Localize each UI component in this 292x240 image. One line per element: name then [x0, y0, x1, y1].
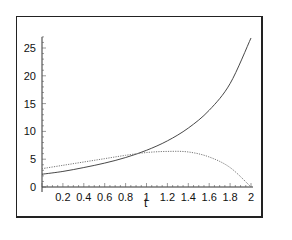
y-tick-label: 20: [24, 70, 36, 82]
y-tick-label: 15: [24, 98, 36, 110]
y-tick-label: 10: [24, 125, 36, 137]
x-tick-label: 2: [248, 191, 254, 203]
y-tick-label: 0: [30, 181, 36, 193]
x-tick-label: 1.2: [160, 191, 175, 203]
y-tick-label: 25: [24, 42, 36, 54]
y-tick-label: 5: [30, 153, 36, 165]
series-solid-line: [42, 38, 251, 174]
x-tick-label: 0.8: [118, 191, 133, 203]
x-axis-label: t: [144, 196, 147, 210]
x-tick-label: 1.4: [181, 191, 196, 203]
x-tick-label: 1.8: [222, 191, 237, 203]
x-tick-label: 0.4: [76, 191, 91, 203]
x-tick-label: 0.2: [55, 191, 70, 203]
x-tick-label: 0.6: [97, 191, 112, 203]
x-tick-label: 1.6: [202, 191, 217, 203]
